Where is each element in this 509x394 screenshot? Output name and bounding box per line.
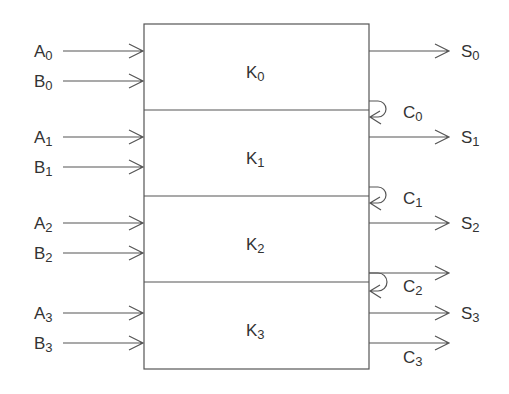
- carry-c2: C2: [403, 277, 423, 298]
- carry-c0: C0: [403, 103, 423, 124]
- sum-s3: S3: [461, 304, 480, 325]
- block-k3: K3: [246, 321, 265, 342]
- input-b1: B1: [34, 158, 53, 179]
- input-arrows: [63, 44, 143, 350]
- input-a1: A1: [34, 128, 53, 149]
- input-a3: A3: [34, 304, 53, 325]
- sum-s2: S2: [461, 214, 480, 235]
- carry-c3: C3: [403, 348, 423, 369]
- input-a0: A0: [34, 42, 53, 63]
- input-a2: A2: [34, 214, 53, 235]
- block-k2: K2: [246, 235, 265, 256]
- input-b2: B2: [34, 244, 53, 265]
- input-b3: B3: [34, 334, 53, 355]
- adder-diagram: K0 K1 K2 K3 A0 B0 A1 B1 A2 B2 A3 B3 S0 S…: [0, 0, 509, 394]
- carry-c1: C1: [403, 189, 423, 210]
- sum-s1: S1: [461, 128, 480, 149]
- sum-s0: S0: [461, 42, 480, 63]
- block-k1: K1: [246, 149, 265, 170]
- input-b0: B0: [34, 72, 53, 93]
- carry-loops: [120, 101, 387, 298]
- block-k0: K0: [246, 63, 265, 84]
